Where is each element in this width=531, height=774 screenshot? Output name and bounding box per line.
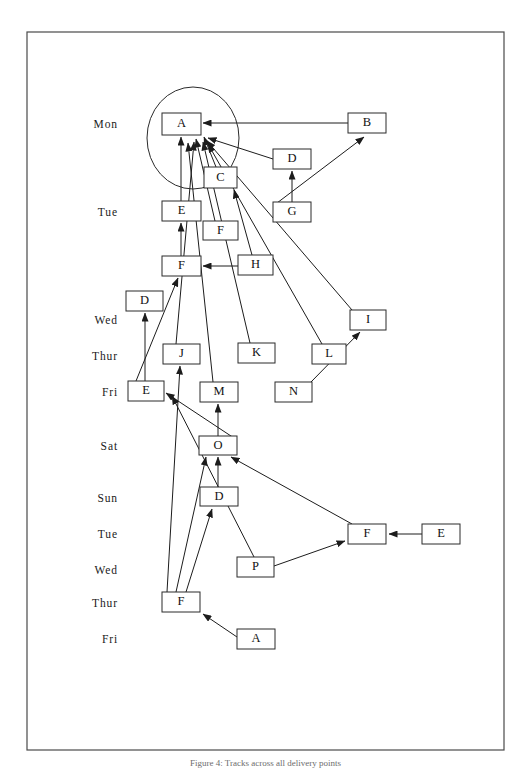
node-label: N [289, 384, 298, 398]
node-a-n24[interactable]: A [237, 629, 275, 649]
node-label: E [437, 526, 445, 540]
node-d-n19[interactable]: D [200, 487, 238, 506]
node-label: F [217, 223, 224, 237]
node-f-n7[interactable]: F [203, 221, 238, 240]
day-label-wed-8: Wed [95, 564, 119, 576]
node-label: I [366, 312, 370, 326]
node-e-n21[interactable]: E [422, 524, 460, 544]
edge-F3-to-O [176, 457, 206, 592]
node-a-n1[interactable]: A [162, 113, 201, 135]
node-label: A [177, 116, 186, 130]
day-label-thur-9: Thur [92, 597, 118, 609]
node-f-n20[interactable]: F [348, 524, 386, 544]
day-label-wed-2: Wed [95, 314, 119, 326]
node-label: A [251, 631, 260, 645]
day-label-sat-5: Sat [101, 440, 118, 452]
node-d-n3[interactable]: D [273, 149, 311, 169]
node-e-n5[interactable]: E [162, 201, 201, 221]
node-h-n9[interactable]: H [238, 255, 273, 275]
edge-P-to-E2 [172, 396, 254, 557]
node-k-n13[interactable]: K [238, 343, 275, 363]
node-f-n23[interactable]: F [162, 592, 200, 612]
edge-layer [136, 123, 422, 637]
node-label: O [213, 438, 222, 452]
node-label: F [178, 258, 185, 272]
node-label: F [178, 594, 185, 608]
node-label: E [178, 203, 186, 217]
day-label-tue-1: Tue [98, 206, 118, 218]
node-layer: ABDCEGFFHDIJKLEMNODFEPFA [126, 113, 460, 649]
node-label: M [213, 384, 224, 398]
edge-G-to-B [277, 137, 364, 203]
node-label: K [252, 345, 261, 359]
node-n-n17[interactable]: N [275, 382, 312, 402]
node-label: H [251, 257, 260, 271]
node-d-n10[interactable]: D [126, 291, 163, 311]
node-label: C [216, 170, 224, 184]
day-label-tue-7: Tue [98, 528, 118, 540]
node-label: D [287, 151, 296, 165]
node-p-n22[interactable]: P [237, 557, 274, 577]
node-label: E [142, 383, 150, 397]
node-label: D [214, 489, 223, 503]
node-label: F [364, 526, 371, 540]
day-label-mon-0: Mon [94, 118, 118, 130]
day-label-fri-10: Fri [102, 633, 118, 645]
edge-F3-to-D2 [186, 509, 212, 592]
node-label: L [325, 346, 333, 360]
flow-diagram: MonTueWedThurFriSatSunTueWedThurFri ABDC… [0, 0, 531, 774]
node-g-n6[interactable]: G [273, 202, 311, 222]
day-label-thur-3: Thur [92, 350, 118, 362]
figure-caption: Figure 4: Tracks across all delivery poi… [0, 758, 531, 768]
day-label-fri-4: Fri [102, 386, 118, 398]
figure-container: MonTueWedThurFriSatSunTueWedThurFri ABDC… [0, 0, 531, 774]
node-c-n4[interactable]: C [204, 167, 237, 188]
node-m-n16[interactable]: M [200, 382, 238, 402]
node-label: J [179, 346, 184, 360]
node-label: P [252, 559, 259, 573]
edge-A2-to-F3 [203, 614, 237, 637]
node-o-n18[interactable]: O [199, 436, 237, 455]
node-e-n15[interactable]: E [128, 381, 164, 401]
node-i-n11[interactable]: I [350, 310, 386, 330]
node-label: D [140, 293, 149, 307]
node-l-n14[interactable]: L [312, 344, 346, 364]
edge-F4-to-O [231, 457, 352, 524]
edge-P-to-F4 [274, 541, 345, 566]
node-j-n12[interactable]: J [163, 344, 200, 364]
node-label: G [287, 204, 296, 218]
edge-D-to-A [208, 138, 273, 159]
node-b-n2[interactable]: B [348, 113, 386, 133]
day-label-sun-6: Sun [97, 492, 118, 504]
day-axis: MonTueWedThurFriSatSunTueWedThurFri [92, 118, 118, 645]
node-f-n8[interactable]: F [162, 256, 201, 276]
node-label: B [363, 115, 371, 129]
